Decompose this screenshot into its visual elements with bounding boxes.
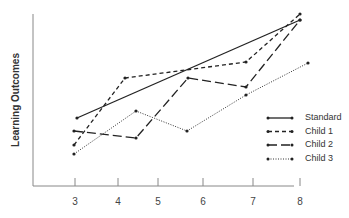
legend-item-standard: Standard bbox=[265, 111, 349, 125]
legend-label: Child 1 bbox=[305, 125, 333, 138]
x-tick-label: 3 bbox=[72, 196, 78, 207]
x-tick-label: 7 bbox=[250, 196, 256, 207]
x-tick-label: 6 bbox=[200, 196, 206, 207]
legend-label: Child 3 bbox=[305, 152, 333, 165]
x-tick-label: 4 bbox=[115, 196, 121, 207]
x-tick-label: 5 bbox=[155, 196, 161, 207]
x-tick-label: 8 bbox=[297, 196, 303, 207]
legend: Standard Child 1 Child 2 Child 3 bbox=[265, 111, 349, 166]
legend-label: Child 2 bbox=[305, 138, 333, 151]
legend-item-child-3: Child 3 bbox=[265, 152, 349, 166]
x-ticks bbox=[75, 178, 300, 186]
line-chart bbox=[0, 0, 349, 218]
legend-item-child-2: Child 2 bbox=[265, 138, 349, 152]
legend-label: Standard bbox=[305, 111, 342, 124]
legend-item-child-1: Child 1 bbox=[265, 125, 349, 139]
y-axis-label: Learning Outcomes bbox=[10, 53, 21, 147]
